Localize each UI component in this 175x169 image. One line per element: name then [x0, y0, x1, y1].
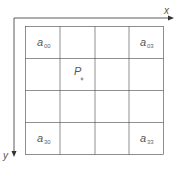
- grid-diagram: x y a 00 a 03 a 30 a 33 P: [0, 0, 175, 169]
- svg-text:a: a: [37, 36, 43, 48]
- cell-label-a00: a 00: [37, 36, 51, 49]
- cell-label-a33: a 33: [140, 132, 154, 145]
- x-axis-label: x: [163, 5, 170, 16]
- cell-label-a30: a 30: [37, 132, 51, 145]
- y-axis-arrow-icon: [12, 151, 17, 157]
- y-axis-label: y: [2, 150, 9, 161]
- svg-text:a: a: [140, 36, 146, 48]
- x-axis-arrow-icon: [168, 16, 174, 21]
- svg-text:a: a: [37, 132, 43, 144]
- svg-text:a: a: [140, 132, 146, 144]
- cell-label-a03: a 03: [140, 36, 154, 49]
- point-p-marker: [81, 78, 84, 81]
- svg-text:03: 03: [147, 43, 154, 49]
- svg-text:00: 00: [44, 43, 51, 49]
- svg-text:33: 33: [147, 139, 154, 145]
- svg-text:30: 30: [44, 139, 51, 145]
- point-p-label: P: [74, 65, 82, 77]
